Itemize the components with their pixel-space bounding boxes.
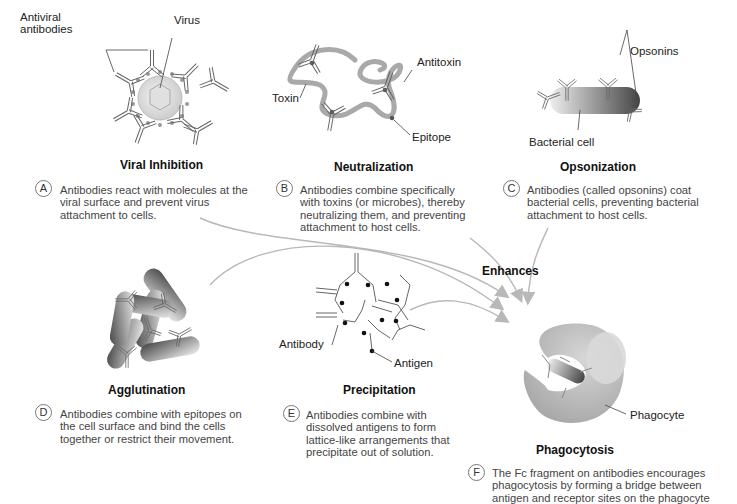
- phagocyte-illustration: [524, 323, 626, 423]
- desc-opsonization: Antibodies (called opsonins) coat bacter…: [527, 184, 707, 221]
- toxin-illustration: [290, 41, 412, 135]
- label-antitoxin: Antitoxin: [417, 56, 461, 69]
- badge-c: C: [503, 180, 520, 197]
- label-phagocyte: Phagocyte: [630, 409, 684, 422]
- label-bacterial-cell: Bacterial cell: [529, 136, 594, 149]
- precipitation-illustration: [316, 253, 425, 362]
- desc-agglutination: Antibodies combine with epitopes on the …: [60, 408, 255, 445]
- desc-viral-inhibition: Antibodies react with molecules at the v…: [60, 184, 260, 221]
- bacterial-cell-illustration: [536, 30, 643, 130]
- label-antiviral-antibodies-2: antibodies: [20, 23, 72, 36]
- title-phagocytosis: Phagocytosis: [536, 443, 614, 457]
- badge-d: D: [35, 404, 52, 421]
- title-precipitation: Precipitation: [343, 383, 416, 397]
- badge-e: E: [283, 405, 300, 422]
- enhances-label: Enhances: [482, 264, 539, 278]
- label-epitope: Epitope: [412, 131, 451, 144]
- badge-b: B: [276, 180, 293, 197]
- label-opsonins: Opsonins: [630, 45, 679, 58]
- badge-a: A: [35, 180, 52, 197]
- title-opsonization: Opsonization: [560, 160, 636, 174]
- label-toxin: Toxin: [272, 92, 299, 105]
- badge-f: F: [468, 464, 485, 481]
- label-antibody: Antibody: [279, 338, 324, 351]
- agglutination-illustration: [104, 265, 201, 372]
- label-virus: Virus: [174, 14, 200, 27]
- virus-illustration: [106, 38, 234, 147]
- desc-phagocytosis: The Fc fragment on antibodies encourages…: [492, 467, 732, 504]
- desc-precipitation: Antibodies combine with dissolved antige…: [306, 409, 466, 459]
- desc-neutralization: Antibodies combine specifically with tox…: [300, 184, 470, 234]
- title-agglutination: Agglutination: [108, 383, 185, 397]
- title-neutralization: Neutralization: [334, 160, 413, 174]
- title-viral-inhibition: Viral Inhibition: [120, 158, 203, 172]
- label-antigen: Antigen: [394, 357, 433, 370]
